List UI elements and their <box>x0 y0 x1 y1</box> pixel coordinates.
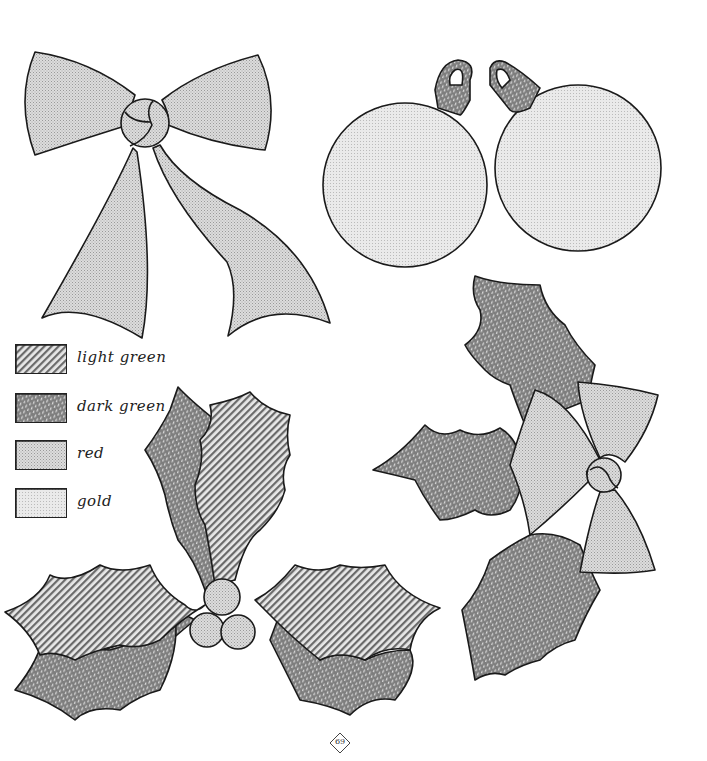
legend-item-red: red <box>15 440 185 474</box>
legend-label: red <box>77 444 104 462</box>
bow-large <box>25 52 330 338</box>
legend-item-gold: gold <box>15 488 185 522</box>
ornament-right <box>490 61 661 251</box>
legend-label: dark green <box>77 397 166 415</box>
gold-swatch <box>15 488 67 518</box>
legend-label: gold <box>77 492 112 510</box>
legend-item-dark-green: dark green <box>15 393 185 427</box>
legend-item-light-green: light green <box>15 344 185 378</box>
legend-label: light green <box>77 348 166 366</box>
pattern-canvas <box>0 0 707 761</box>
page-number-badge: 69 <box>329 732 351 754</box>
dark-green-swatch <box>15 393 67 423</box>
light-green-swatch <box>15 344 67 374</box>
red-swatch <box>15 440 67 470</box>
page-number: 69 <box>329 737 351 746</box>
holly-berries-sprig <box>5 387 440 720</box>
ornament-left <box>323 60 487 267</box>
